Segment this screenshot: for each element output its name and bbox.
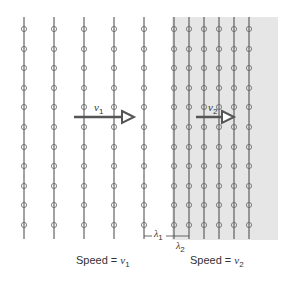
lambda1-label: λ1 [154, 228, 163, 242]
arrow-v1-label: v1 [94, 101, 103, 116]
refraction-wavefront-diagram: v1 v2 λ1 λ2 Speed = v1 Speed = v2 [0, 0, 289, 281]
lambda2-label: λ2 [176, 240, 185, 254]
speed-v1-label: Speed = v1 [76, 254, 130, 269]
wavefront-canvas [0, 0, 289, 281]
arrow-v2-label: v2 [208, 101, 217, 116]
region2-shading [172, 17, 278, 240]
arrow-v1-icon [74, 111, 134, 123]
speed-v2-label: Speed = v2 [190, 254, 244, 269]
